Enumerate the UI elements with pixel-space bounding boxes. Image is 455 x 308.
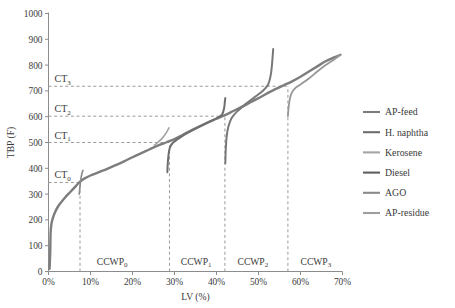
x-tick-label: 0% xyxy=(42,277,55,287)
ccwp-annotation-3: CCWP3 xyxy=(301,256,332,270)
y-tick-label: 900 xyxy=(28,35,42,45)
y-tick-label: 500 xyxy=(28,138,42,148)
y-axis-title: TBP (F) xyxy=(5,127,17,158)
x-tick-label: 30% xyxy=(166,277,183,287)
y-tick-label: 1000 xyxy=(24,9,43,19)
legend-label: Diesel xyxy=(385,167,410,178)
x-axis-title: LV (%) xyxy=(181,291,210,303)
series-curve-diesel xyxy=(167,98,225,172)
series-curve-ap-residue xyxy=(288,55,341,116)
legend-label: AP-feed xyxy=(385,106,418,117)
x-tick-label: 60% xyxy=(292,277,309,287)
series-curves xyxy=(50,49,341,269)
chart-legend: AP-feedH. naphthaKeroseneDieselAGOAP-res… xyxy=(363,106,430,218)
x-tick-label: 50% xyxy=(250,277,267,287)
y-tick-label: 700 xyxy=(28,86,42,96)
tick-labels: 010020030040050060070080090010000%10%20%… xyxy=(24,9,352,287)
ccwp-annotation-1: CCWP1 xyxy=(181,256,212,270)
ct-annotation-3: CT3 xyxy=(55,73,72,87)
tbp-distillation-chart: 010020030040050060070080090010000%10%20%… xyxy=(0,0,455,308)
y-tick-label: 0 xyxy=(38,267,43,277)
y-tick-label: 300 xyxy=(28,190,42,200)
legend-label: H. naphtha xyxy=(385,127,429,138)
y-tick-label: 400 xyxy=(28,164,42,174)
ct-annotation-2: CT2 xyxy=(55,103,72,117)
x-tick-label: 10% xyxy=(82,277,99,287)
axis-group xyxy=(45,13,343,276)
legend-label: AP-residue xyxy=(385,207,430,218)
series-curve-ago xyxy=(225,49,273,163)
y-tick-label: 100 xyxy=(28,241,42,251)
legend-label: Kerosene xyxy=(385,147,423,158)
ccwp-annotation-0: CCWP0 xyxy=(97,256,128,270)
ct-annotation-1: CT1 xyxy=(55,130,72,144)
y-tick-label: 600 xyxy=(28,112,42,122)
ccwp-annotation-2: CCWP2 xyxy=(238,256,269,270)
ct-annotation-0: CT0 xyxy=(55,169,72,183)
legend-label: AGO xyxy=(385,187,406,198)
x-tick-label: 70% xyxy=(334,277,351,287)
series-curve-h-naphtha xyxy=(79,170,83,194)
y-tick-label: 200 xyxy=(28,215,42,225)
y-tick-label: 800 xyxy=(28,61,42,71)
x-tick-label: 40% xyxy=(208,277,225,287)
x-tick-label: 20% xyxy=(124,277,141,287)
chart-figure: 010020030040050060070080090010000%10%20%… xyxy=(0,0,455,308)
